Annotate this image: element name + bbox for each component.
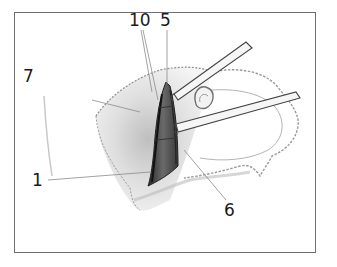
label-6: 6 bbox=[224, 202, 235, 219]
ear-lobe-outline bbox=[195, 87, 213, 109]
skin-edge-left bbox=[44, 96, 52, 176]
label-1: 1 bbox=[32, 172, 43, 189]
label-7: 7 bbox=[23, 68, 34, 85]
label-10: 10 bbox=[129, 12, 151, 29]
surgical-illustration bbox=[0, 0, 337, 267]
label-5: 5 bbox=[160, 12, 171, 29]
